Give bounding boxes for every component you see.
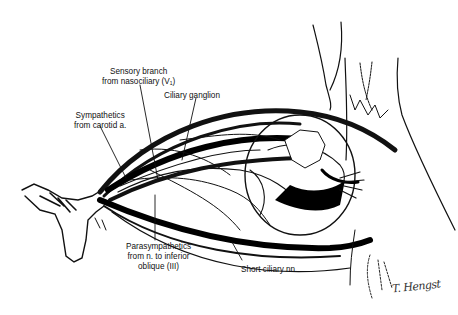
label-sympathetics: Sympathetics from carotid a. [74,111,126,131]
label-sensory-branch-line2: from nasociliary (V₁) [102,77,175,87]
orbit-nerve-drawing [0,0,458,315]
label-short-ciliary-line1: Short ciliary nn. [241,265,297,275]
label-sympathetics-line1: Sympathetics [74,111,126,121]
label-parasympathetics-line2: from n. to inferior [126,252,191,262]
anatomical-illustration: Sensory branch from nasociliary (V₁) Cil… [0,0,458,315]
nasal-outline [397,58,455,230]
label-ciliary-ganglion: Ciliary ganglion [164,91,220,101]
label-sensory-branch-line1: Sensory branch [102,67,175,77]
optic-nerve-stump [22,184,104,262]
label-parasympathetics-line1: Parasympathetics [126,242,191,252]
label-sympathetics-line2: from carotid a. [74,121,126,131]
supratrochlear-branch [313,25,331,110]
label-short-ciliary: Short ciliary nn. [241,265,297,275]
label-sensory-branch: Sensory branch from nasociliary (V₁) [102,67,175,87]
label-parasympathetics: Parasympathetics from n. to inferior obl… [126,242,191,272]
label-parasympathetics-line3: oblique (III) [126,262,191,272]
label-ciliary-ganglion-line1: Ciliary ganglion [164,91,220,101]
eye-dark-shading [275,180,345,210]
leader-sympathetics [100,126,126,178]
